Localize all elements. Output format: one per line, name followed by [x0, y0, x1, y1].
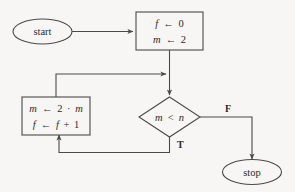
flowchart-diagram: start f ← 0 m ← 2 m ← 2 · m f ← f + 1: [0, 0, 295, 192]
body-line1-rhs-b: m: [75, 103, 83, 114]
decision-operator-icon: <: [168, 112, 174, 123]
init-line2-arrow-icon: ←: [166, 34, 177, 45]
node-start-label: start: [33, 26, 51, 37]
body-line2-plus-icon: +: [63, 119, 69, 130]
branch-label-true: T: [177, 139, 184, 150]
init-line1-arrow-icon: ←: [163, 18, 174, 29]
node-decision-label: m < n: [155, 112, 184, 123]
connector-false-branch: [200, 117, 252, 159]
connector-loop-back-to-decision: [56, 74, 166, 97]
init-line2-var: m: [153, 34, 161, 45]
branch-label-false: F: [225, 103, 231, 114]
connector-true-branch: [59, 135, 170, 153]
node-stop-label: stop: [243, 167, 261, 178]
node-body-line1: m ← 2 · m: [29, 103, 83, 114]
decision-rhs: n: [179, 112, 184, 123]
body-line1-dot-icon: ·: [67, 103, 71, 114]
body-line1-arrow-icon: ←: [42, 103, 53, 114]
body-line1-var: m: [29, 103, 37, 114]
node-init-line2: m ← 2: [153, 34, 186, 45]
body-line2-rhs-b: 1: [74, 119, 79, 130]
init-line2-value: 2: [181, 34, 186, 45]
body-line2-arrow-icon: ←: [41, 119, 52, 130]
body-line2-rhs-a: f: [56, 119, 61, 130]
body-line1-rhs-a: 2: [57, 103, 62, 114]
body-line2-var: f: [33, 119, 38, 130]
decision-lhs: m: [155, 112, 163, 123]
init-line1-value: 0: [178, 18, 183, 29]
init-line1-var: f: [155, 18, 160, 29]
flowchart-canvas: start f ← 0 m ← 2 m ← 2 · m f ← f + 1: [0, 0, 295, 192]
node-init-line1: f ← 0: [155, 18, 183, 29]
